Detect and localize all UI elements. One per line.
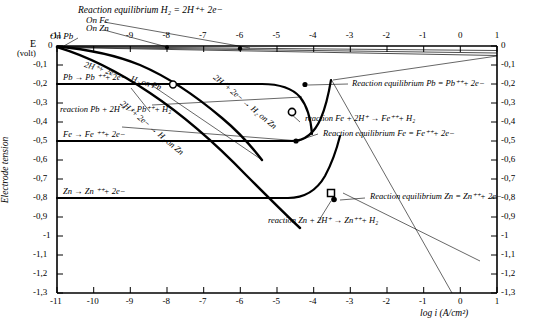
x-tick-top-0: 0 — [458, 30, 463, 40]
x-axis-ticks-bottom — [57, 287, 497, 293]
x-tick-top--2: -2 — [382, 30, 390, 40]
x-tick-bottom--6: -6 — [236, 296, 244, 306]
y-tick-right--0,8: -0,8 — [501, 192, 515, 202]
x-tick-bottom-0: 0 — [458, 296, 463, 306]
y-tick-left--1,1: -1,1 — [33, 249, 47, 259]
y-tick-left--0,4: -0,4 — [33, 116, 47, 126]
leader-eq-zn — [340, 198, 365, 200]
leader-pb-diag — [152, 97, 302, 105]
y-tick-right--0,2: -0,2 — [501, 78, 515, 88]
marker-h2-on-zn-point — [165, 45, 169, 49]
y-tick-right--0,9: -0,9 — [501, 211, 515, 221]
marker-zn-eq-point — [331, 197, 337, 203]
y-tick-left--1: -1 — [43, 230, 51, 240]
marker-h2-on-pb-point — [238, 46, 242, 50]
x-tick-bottom--4: -4 — [309, 296, 317, 306]
annotation-anodic-pb: Pb → Pb ⁺⁺+ 2e− — [63, 72, 126, 82]
x-tick-bottom--8: -8 — [162, 296, 170, 306]
x-tick-top--1: -1 — [419, 30, 427, 40]
annotation-equilibrium-zn: Reaction equilibrium Zn = Zn⁺⁺+ 2e− — [370, 191, 502, 201]
annotation-equilibrium-fe: Reaction equilibrium Fe = Fe⁺⁺+ 2e− — [323, 128, 455, 138]
y-tick-right-0: 0 — [501, 40, 506, 50]
x-tick-top--5: -5 — [272, 30, 280, 40]
annotation-h2-equilibrium: Reaction equilibrium H₂ = 2H⁺+ 2e− — [78, 4, 223, 15]
y-tick-right--0,5: -0,5 — [501, 135, 515, 145]
annotation-leader-lines — [62, 22, 497, 293]
annotation-equilibrium-pb: Reaction equilibrium Pb = Pb⁺⁺+ 2e− — [352, 78, 485, 88]
y-tick-right--0,1: -0,1 — [501, 59, 515, 69]
y-axis-title: Electrode tension — [0, 137, 10, 203]
y-tick-right--1,1: -1,1 — [501, 249, 515, 259]
y-tick-left--0,8: -0,8 — [33, 192, 47, 202]
annotation-reaction-zn: reaction Zn + 2H⁺ → Zn⁺⁺+ H₂ — [268, 215, 378, 225]
x-tick-bottom--9: -9 — [126, 296, 134, 306]
y-tick-right--1: -1 — [501, 230, 509, 240]
y-tick-right--0,6: -0,6 — [501, 154, 515, 164]
y-axis-ticks-right — [491, 46, 497, 293]
leader-on-zn — [104, 30, 167, 47]
plot-canvas — [0, 0, 533, 327]
y-tick-left--0,1: -0,1 — [33, 59, 47, 69]
annotation-anodic-zn: Zn → Zn ⁺⁺+ 2e− — [63, 186, 125, 196]
marker-fe-corrosion-point — [288, 108, 295, 115]
y-tick-left--1,2: -1,2 — [33, 268, 47, 278]
y-tick-left--0,7: -0,7 — [33, 173, 47, 183]
y-tick-left--1,3: -1,3 — [33, 287, 47, 297]
marker-zn-corrosion-point — [328, 190, 335, 197]
y-tick-right--0,4: -0,4 — [501, 116, 515, 126]
x-tick-bottom--10: -10 — [87, 296, 99, 306]
y-tick-left--0,3: -0,3 — [33, 97, 47, 107]
x-tick-top--8: -8 — [162, 30, 170, 40]
x-tick-top--11: -11 — [50, 30, 62, 40]
x-tick-top--6: -6 — [236, 30, 244, 40]
y-tick-right--1,2: -1,2 — [501, 268, 515, 278]
y-tick-right--1,3: -1,3 — [501, 287, 515, 297]
x-axis-title: log i (A/cm²) — [420, 308, 468, 318]
x-tick-top--7: -7 — [199, 30, 207, 40]
y-tick-right--0,7: -0,7 — [501, 173, 515, 183]
x-tick-bottom--3: -3 — [346, 296, 354, 306]
x-tick-bottom--7: -7 — [199, 296, 207, 306]
x-tick-top--9: -9 — [126, 30, 134, 40]
annotation-reaction-pb: reaction Pb + 2H⁺ → Pb⁺⁺+ H₂ — [60, 104, 171, 114]
leader-fe-long — [333, 56, 497, 80]
evans-diagram: Reaction equilibrium H₂ = 2H⁺+ 2e− On Fe… — [0, 0, 533, 327]
x-tick-bottom-1: 1 — [495, 296, 500, 306]
y-tick-right--0,3: -0,3 — [501, 97, 515, 107]
marker-pb-corrosion-point — [170, 81, 177, 88]
leader-eq-pb — [308, 84, 348, 85]
marker-fe-eq-point — [293, 138, 298, 143]
x-tick-bottom--1: -1 — [419, 296, 427, 306]
annotation-reaction-fe: reaction Fe + 2H⁺ → Fe⁺⁺+ H₂ — [305, 113, 415, 123]
leader-descending-right — [331, 79, 452, 293]
x-tick-bottom--5: -5 — [272, 296, 280, 306]
marker-pb-eq-point — [302, 82, 307, 87]
x-tick-bottom--11: -11 — [50, 296, 62, 306]
x-tick-top-1: 1 — [495, 30, 500, 40]
x-tick-bottom--2: -2 — [382, 296, 390, 306]
y-tick-left--0,2: -0,2 — [33, 78, 47, 88]
annotation-on-zn: On Zn — [86, 23, 109, 33]
y-tick-left--0,5: -0,5 — [33, 135, 47, 145]
x-tick-top--3: -3 — [346, 30, 354, 40]
x-tick-top--4: -4 — [309, 30, 317, 40]
y-axis-title-unit: (volt) — [17, 48, 36, 58]
leader-eq-zn-long — [343, 193, 480, 261]
y-tick-left--0,6: -0,6 — [33, 154, 47, 164]
annotation-anodic-fe: Fe → Fe ⁺⁺+ 2e− — [63, 129, 125, 139]
y-tick-left--0,9: -0,9 — [33, 211, 47, 221]
y-tick-left-0: 0 — [48, 40, 53, 50]
